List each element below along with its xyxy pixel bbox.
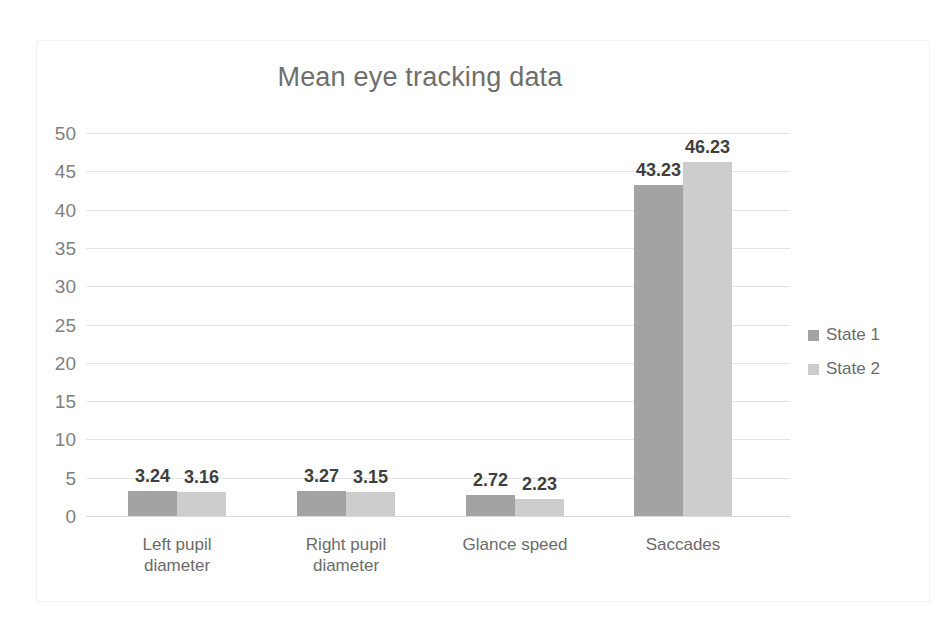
x-axis-category-line: diameter	[266, 555, 426, 576]
bar-state-2[interactable]	[177, 492, 226, 516]
bar-value-label: 46.23	[668, 138, 748, 156]
y-axis-tick-label: 15	[36, 392, 76, 411]
bar-group	[128, 133, 226, 516]
x-axis-category-line: Left pupil	[97, 534, 257, 555]
axis-baseline	[86, 516, 790, 517]
bar-value-label: 3.15	[331, 468, 411, 486]
bar-group	[634, 133, 732, 516]
bar-state-2[interactable]	[515, 499, 564, 516]
chart-legend: State 1State 2	[808, 318, 880, 386]
legend-label: State 1	[826, 325, 880, 345]
y-axis-tick-label: 45	[36, 162, 76, 181]
legend-swatch-icon	[808, 330, 819, 341]
bar-group	[297, 133, 395, 516]
legend-item-state-2[interactable]: State 2	[808, 352, 880, 386]
y-axis-tick-label: 50	[36, 124, 76, 143]
y-axis-tick-label: 5	[36, 469, 76, 488]
x-axis-category-label: Left pupildiameter	[97, 534, 257, 577]
bar-state-2[interactable]	[683, 162, 732, 516]
bar-state-1[interactable]	[297, 491, 346, 516]
x-axis-category-label: Saccades	[603, 534, 763, 555]
legend-item-state-1[interactable]: State 1	[808, 318, 880, 352]
y-axis-tick-label: 40	[36, 201, 76, 220]
bar-state-1[interactable]	[634, 185, 683, 516]
y-axis-tick-label: 35	[36, 239, 76, 258]
x-axis-category-line: diameter	[97, 555, 257, 576]
y-axis-tick-label: 20	[36, 354, 76, 373]
y-axis-tick-label: 10	[36, 430, 76, 449]
x-axis-category-line: Right pupil	[266, 534, 426, 555]
chart-title: Mean eye tracking data	[120, 62, 720, 93]
bar-state-2[interactable]	[346, 492, 395, 516]
bar-value-label: 43.23	[619, 161, 699, 179]
bar-group	[466, 133, 564, 516]
x-axis-category-line: Glance speed	[435, 534, 595, 555]
x-axis-category-line: Saccades	[603, 534, 763, 555]
x-axis-category-label: Glance speed	[435, 534, 595, 555]
bar-value-label: 2.23	[500, 475, 580, 493]
y-axis-tick-label: 0	[36, 507, 76, 526]
y-axis-tick-label: 25	[36, 316, 76, 335]
bar-value-label: 3.16	[162, 468, 242, 486]
chart-container: Mean eye tracking data 50454035302520151…	[0, 0, 944, 631]
bar-state-1[interactable]	[128, 491, 177, 516]
plot-area	[86, 133, 790, 516]
bar-state-1[interactable]	[466, 495, 515, 516]
legend-label: State 2	[826, 359, 880, 379]
x-axis-category-label: Right pupildiameter	[266, 534, 426, 577]
legend-swatch-icon	[808, 364, 819, 375]
y-axis-tick-label: 30	[36, 277, 76, 296]
